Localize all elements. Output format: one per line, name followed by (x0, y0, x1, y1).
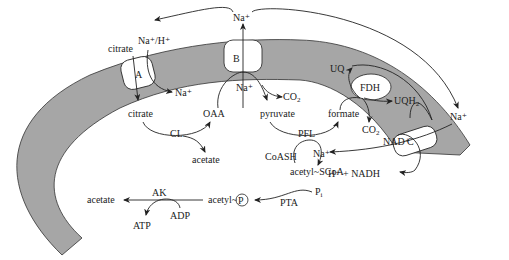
citrate-in-label: citrate (128, 108, 154, 119)
pfl-label: PFL (298, 128, 315, 139)
acetyl-p-label: acetyl~ (208, 194, 238, 205)
co2-b-label: CO2 (283, 91, 301, 104)
pta-label: PTA (280, 197, 299, 208)
transporter-b-label: B (233, 53, 240, 64)
co2-fdh-label: CO2 (362, 124, 380, 137)
na-a-out-label: Na⁺ (175, 87, 192, 98)
acetate-cl-label: acetate (192, 154, 220, 165)
na-top-label: Na⁺ (233, 12, 250, 23)
p-circle-label: P (238, 195, 244, 206)
h-nadh-label: H⁺ + NADH (328, 168, 380, 179)
na-h-label: Na⁺/H⁺ (138, 35, 170, 46)
pathway-diagram: A B FDH C Na⁺ citrate Na⁺/H⁺ Na⁺ citrate… (0, 0, 509, 260)
fdh-label: FDH (360, 82, 380, 93)
cl-acetate-arrow (183, 136, 205, 152)
na-cycle-arc-left (155, 7, 233, 20)
na-c-out-label: Na⁺ (313, 148, 330, 159)
coash-label: CoASH (265, 151, 297, 162)
pi-label: Pi (315, 186, 323, 199)
na-right-label: Na⁺ (450, 111, 467, 122)
atp-label: ATP (133, 220, 151, 231)
uq-label: UQ (330, 63, 345, 74)
oaa-label: OAA (203, 108, 225, 119)
acetate-ak-label: acetate (87, 194, 115, 205)
na-b-in-label: Na⁺ (236, 82, 253, 93)
formate-label: formate (328, 108, 360, 119)
cl-label: CL (170, 128, 183, 139)
ak-label: AK (152, 187, 167, 198)
citrate-out-label: citrate (108, 43, 134, 54)
nad-label: NAD⁺ (383, 136, 410, 147)
adp-label: ADP (170, 210, 190, 221)
transporter-a-label: A (135, 69, 143, 80)
pyruvate-label: pyruvate (260, 108, 296, 119)
